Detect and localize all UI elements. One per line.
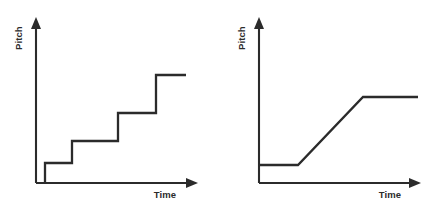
y-axis-label: Pitch xyxy=(236,26,247,50)
y-axis-arrow-icon xyxy=(31,17,41,29)
ramp-pitch-curve xyxy=(259,97,418,165)
y-axis-label: Pitch xyxy=(13,26,24,50)
x-axis-label: Time xyxy=(154,189,176,200)
y-axis-arrow-icon xyxy=(254,17,264,29)
axes-ramp xyxy=(254,17,421,188)
x-axis-label: Time xyxy=(379,189,401,200)
stepwise-pitch-curve xyxy=(45,75,186,183)
x-axis-arrow-icon xyxy=(409,178,421,188)
panel-stepwise: Pitch Time xyxy=(0,0,218,214)
panel-ramp: Pitch Time xyxy=(218,0,436,214)
pitch-contour-figure: Pitch Time Pitch Time xyxy=(0,0,436,214)
x-axis-arrow-icon xyxy=(186,178,198,188)
